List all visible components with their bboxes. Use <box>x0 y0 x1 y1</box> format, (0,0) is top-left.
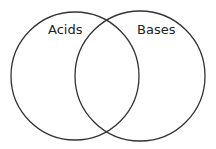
venn-diagram: Acids Bases <box>0 0 216 149</box>
bases-label: Bases <box>137 22 176 37</box>
acids-label: Acids <box>48 22 83 37</box>
